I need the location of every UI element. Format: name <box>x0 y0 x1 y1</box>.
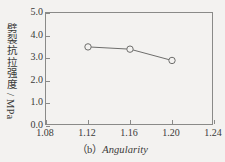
x-tick-label: 1.20 <box>151 127 191 139</box>
x-axis-tick-labels: 1.08 1.12 1.16 1.20 1.24 <box>0 127 225 141</box>
series-line-chart <box>46 13 214 126</box>
y-tick-label: 5.0 <box>18 7 43 17</box>
y-tick-label: 1.0 <box>18 97 43 107</box>
data-point-marker <box>169 57 175 63</box>
caption-text: Angularity <box>102 144 148 155</box>
y-axis-title: 劈裂抗拉强度 / MPa <box>2 12 18 130</box>
x-tick-label: 1.24 <box>193 127 225 139</box>
plot-area <box>45 12 213 125</box>
x-tick-label: 1.12 <box>67 127 107 139</box>
y-axis-tick-labels: 5.0 4.0 3.0 2.0 1.0 0.0 <box>18 6 43 131</box>
series-markers <box>85 44 175 64</box>
caption-index: （b） <box>77 144 102 155</box>
x-tick-label: 1.08 <box>25 127 65 139</box>
y-tick-label: 3.0 <box>18 52 43 62</box>
x-tick-label: 1.16 <box>109 127 149 139</box>
x-tick-mark <box>214 120 215 124</box>
y-tick-label: 4.0 <box>18 30 43 40</box>
data-point-marker <box>127 46 133 52</box>
figure-panel-b: 劈裂抗拉强度 / MPa 5.0 4.0 3.0 2.0 1.0 0.0 1.0… <box>0 0 225 162</box>
figure-caption: （b）Angularity <box>0 143 225 156</box>
data-point-marker <box>85 44 91 50</box>
y-tick-label: 2.0 <box>18 75 43 85</box>
